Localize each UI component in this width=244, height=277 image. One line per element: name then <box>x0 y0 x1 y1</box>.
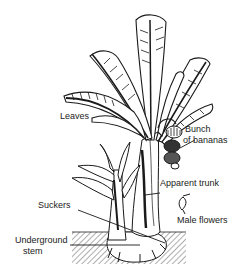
label-male-flowers: Male flowers <box>177 215 228 225</box>
sucker-plant <box>72 142 140 240</box>
apparent-trunk <box>132 132 160 237</box>
label-suckers: Suckers <box>38 200 71 210</box>
label-apparent-trunk: Apparent trunk <box>160 178 219 188</box>
label-leaves: Leaves <box>60 111 89 121</box>
label-bunch-line1: Bunch <box>185 124 211 134</box>
label-underground-line1: Underground <box>15 235 68 245</box>
male-flower <box>179 194 190 214</box>
label-bunch-line2: of bananas <box>183 135 228 145</box>
banana-plant-diagram: Leaves Bunch of bananas Apparent trunk M… <box>0 0 244 277</box>
label-underground-line2: stem <box>23 246 43 256</box>
